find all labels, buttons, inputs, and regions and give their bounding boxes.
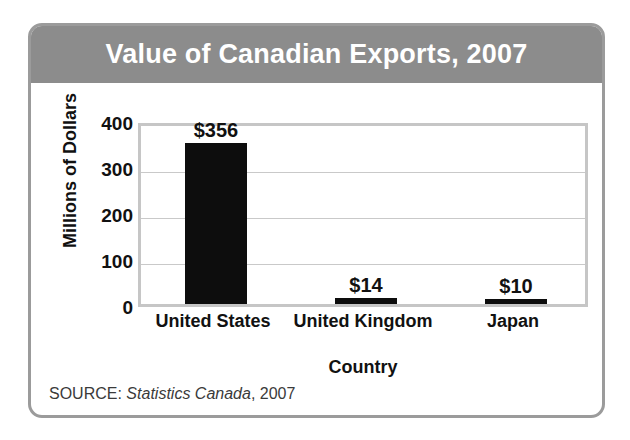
y-axis-tick-label: 0 <box>79 298 133 317</box>
bar-rect[interactable] <box>485 299 547 304</box>
source-publisher: Statistics Canada <box>126 385 251 402</box>
y-axis-tick-labels: 4003002001000 <box>79 123 133 307</box>
bar-group[interactable]: $14 <box>335 120 397 304</box>
bar-rect[interactable] <box>185 143 247 304</box>
bar-value-label: $356 <box>194 120 239 140</box>
bar-rect[interactable] <box>335 298 397 304</box>
x-axis-category-label: Japan <box>438 311 588 332</box>
source-prefix: SOURCE: <box>49 385 122 402</box>
bar-series: $356$14$10 <box>141 126 585 304</box>
bar-value-label: $10 <box>499 276 532 296</box>
y-axis-title: Millions of Dollars <box>60 76 81 266</box>
y-axis-tick-label: 300 <box>79 160 133 179</box>
bar-group[interactable]: $356 <box>185 120 247 304</box>
x-axis-category-label: United Kingdom <box>288 311 438 332</box>
source-note: SOURCE: Statistics Canada, 2007 <box>49 385 295 403</box>
x-axis-tick-labels: Country United StatesUnited KingdomJapan <box>138 311 588 389</box>
y-axis-tick-label: 100 <box>79 252 133 271</box>
x-axis-category-label: United States <box>138 311 288 332</box>
chart-title-band: Value of Canadian Exports, 2007 <box>31 26 602 83</box>
bar-group[interactable]: $10 <box>485 120 547 304</box>
source-suffix: , 2007 <box>251 385 295 402</box>
chart-body: Millions of Dollars 4003002001000 $356$1… <box>31 83 602 415</box>
x-axis-title: Country <box>288 357 438 378</box>
y-axis-tick-label: 400 <box>79 114 133 133</box>
figure-panel: Value of Canadian Exports, 2007 Millions… <box>28 23 605 418</box>
bar-value-label: $14 <box>349 275 382 295</box>
page-title: Value of Canadian Exports, 2007 <box>106 39 528 70</box>
y-axis-tick-label: 200 <box>79 206 133 225</box>
plot-area: $356$14$10 <box>138 123 588 307</box>
